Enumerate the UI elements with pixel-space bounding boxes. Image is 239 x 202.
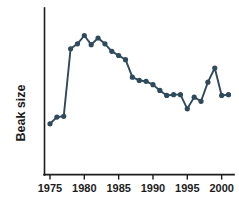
y-axis-label-group: Beak size xyxy=(14,84,28,141)
x-tick-label-1985: 1985 xyxy=(106,182,130,194)
data-point xyxy=(178,92,183,97)
data-point xyxy=(205,80,210,85)
data-point xyxy=(198,99,203,104)
series-group xyxy=(47,33,231,127)
data-point xyxy=(102,41,107,46)
x-tick-label-1995: 1995 xyxy=(175,182,199,194)
data-point xyxy=(157,88,162,93)
data-point xyxy=(68,46,73,51)
data-points-beak-size xyxy=(47,33,231,127)
data-point xyxy=(137,78,142,83)
data-point xyxy=(219,93,224,98)
x-tick-label-2000: 2000 xyxy=(209,182,233,194)
data-point xyxy=(192,95,197,100)
data-point xyxy=(82,33,87,38)
data-point xyxy=(47,121,52,126)
data-point xyxy=(164,93,169,98)
x-tick-label-1975: 1975 xyxy=(38,182,62,194)
x-tick-label-1980: 1980 xyxy=(72,182,96,194)
data-point xyxy=(61,114,66,119)
beak-size-line-chart: Beak size 197519801985199019952000 xyxy=(0,0,239,202)
data-point xyxy=(144,79,149,84)
x-tick-label-1990: 1990 xyxy=(141,182,165,194)
data-point xyxy=(95,35,100,40)
x-axis-tick-labels: 197519801985199019952000 xyxy=(38,182,234,194)
data-point xyxy=(212,65,217,70)
data-point xyxy=(123,57,128,62)
data-point xyxy=(150,82,155,87)
data-point xyxy=(171,92,176,97)
data-point xyxy=(185,106,190,111)
data-point xyxy=(116,53,121,58)
data-point xyxy=(89,42,94,47)
data-point xyxy=(54,115,59,120)
data-point xyxy=(226,92,231,97)
data-point xyxy=(75,41,80,46)
y-axis-label: Beak size xyxy=(14,84,28,141)
chart-figure: Beak size 197519801985199019952000 xyxy=(0,0,239,202)
data-point xyxy=(130,75,135,80)
data-point xyxy=(109,49,114,54)
